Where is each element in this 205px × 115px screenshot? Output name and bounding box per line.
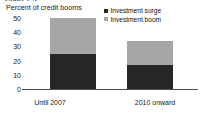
y-axis-title: Percent of credit booms: [6, 4, 82, 12]
bar-segment-investment-boom-2010-onward: [127, 41, 173, 65]
y-tick-50: 50: [13, 15, 21, 22]
x-axis-line: [26, 89, 198, 90]
y-tick-30: 30: [13, 43, 21, 50]
y-tick-20: 20: [13, 57, 21, 64]
legend-label-investment-surge: Investment surge: [111, 7, 162, 14]
y-axis-tick-labels: 50 40 30 20 10 0: [0, 18, 24, 90]
plot-area: [26, 18, 198, 90]
bar-segment-investment-surge-until-2007: [50, 54, 96, 90]
bar-segment-investment-surge-2010-onward: [127, 65, 173, 89]
legend-item-investment-surge: Investment surge: [104, 7, 161, 14]
x-label-2010-onward: 2010 onward: [110, 99, 200, 107]
y-tick-40: 40: [13, 29, 21, 36]
chart-figure: Chart 2.5 Percent of credit booms Invest…: [0, 0, 205, 115]
clipped-caption: Chart 2.5: [5, 0, 37, 1]
bar-segment-investment-boom-until-2007: [50, 18, 96, 54]
bar-until-2007: [50, 18, 96, 89]
y-tick-0: 0: [17, 86, 21, 93]
x-label-until-2007: Until 2007: [5, 99, 95, 107]
legend-swatch-investment-surge: [104, 9, 108, 13]
y-tick-10: 10: [13, 71, 21, 78]
bar-2010-onward: [127, 41, 173, 89]
